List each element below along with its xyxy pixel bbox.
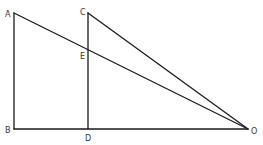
- segment-co: [88, 13, 248, 129]
- label-point-e: E: [80, 52, 85, 61]
- label-point-d: D: [85, 134, 91, 143]
- label-point-o: O: [251, 127, 257, 136]
- geometry-diagram: A B C D E O: [0, 0, 263, 145]
- label-point-a: A: [5, 10, 11, 19]
- label-point-c: C: [80, 8, 86, 17]
- segment-ao: [14, 13, 248, 129]
- label-point-b: B: [5, 126, 11, 135]
